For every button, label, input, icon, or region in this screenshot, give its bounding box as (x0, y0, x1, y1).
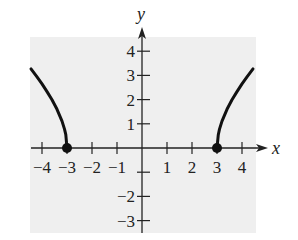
y-tick-label: −2 (117, 187, 135, 206)
y-tick-label: 3 (127, 66, 136, 85)
x-tick-label: −2 (83, 158, 101, 177)
y-tick-label: −3 (117, 212, 135, 231)
y-tick-label: 2 (127, 91, 136, 110)
x-tick-label: 1 (163, 158, 172, 177)
x-tick-label: 4 (238, 158, 247, 177)
filled-dot-icon (62, 143, 72, 153)
x-tick-label: 3 (213, 158, 222, 177)
x-axis-label: x (271, 138, 280, 158)
x-tick-label: −1 (108, 158, 126, 177)
plot-background (30, 37, 256, 233)
filled-dot-icon (212, 143, 222, 153)
function-graph: −4−3−2−11234−3−21234 x y (0, 0, 298, 240)
y-tick-label: 1 (127, 115, 136, 134)
y-axis-label: y (135, 4, 145, 24)
x-tick-label: −3 (58, 158, 76, 177)
x-tick-label: −4 (33, 158, 52, 177)
x-tick-label: 2 (188, 158, 197, 177)
y-tick-label: 4 (127, 42, 136, 61)
